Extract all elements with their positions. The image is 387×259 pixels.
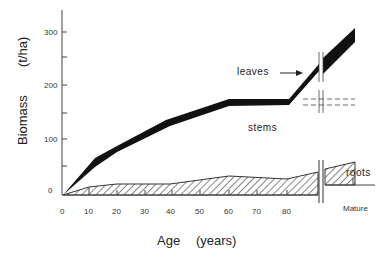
biomass-chart: 300 200 100 0 Biomass (t/ha) 0 10 20 30 … (0, 0, 387, 259)
stems-label: stems (248, 122, 277, 133)
x-axis-title-unit: (years) (196, 233, 236, 248)
x-axis-title-main: Age (157, 233, 180, 248)
y-tick-200: 200 (44, 81, 58, 90)
y-axis: 300 200 100 0 (44, 10, 67, 195)
y-tick-300: 300 (44, 28, 58, 37)
roots-area (63, 172, 318, 195)
y-tick-0: 0 (48, 186, 53, 195)
x-tick-60: 60 (224, 207, 233, 216)
x-tick-40: 40 (166, 207, 175, 216)
y-axis-title: Biomass (t/ha) (15, 37, 30, 145)
x-tick-0: 0 (60, 207, 65, 216)
x-tick-50: 50 (195, 207, 204, 216)
y-axis-title-main: Biomass (15, 95, 30, 145)
x-tick-30: 30 (140, 207, 149, 216)
roots-label: roots (346, 167, 371, 178)
x-tick-10: 10 (84, 207, 93, 216)
leaves-band-mature (323, 28, 355, 74)
leaves-arrow-icon (280, 70, 303, 76)
x-tick-70: 70 (252, 207, 261, 216)
x-tick-mature: Mature (343, 204, 368, 213)
leaves-band (63, 64, 319, 195)
y-axis-title-unit: (t/ha) (15, 37, 30, 67)
y-tick-100: 100 (44, 135, 58, 144)
x-tick-80: 80 (282, 207, 291, 216)
leaves-label: leaves (237, 66, 269, 77)
x-tick-20: 20 (112, 207, 121, 216)
